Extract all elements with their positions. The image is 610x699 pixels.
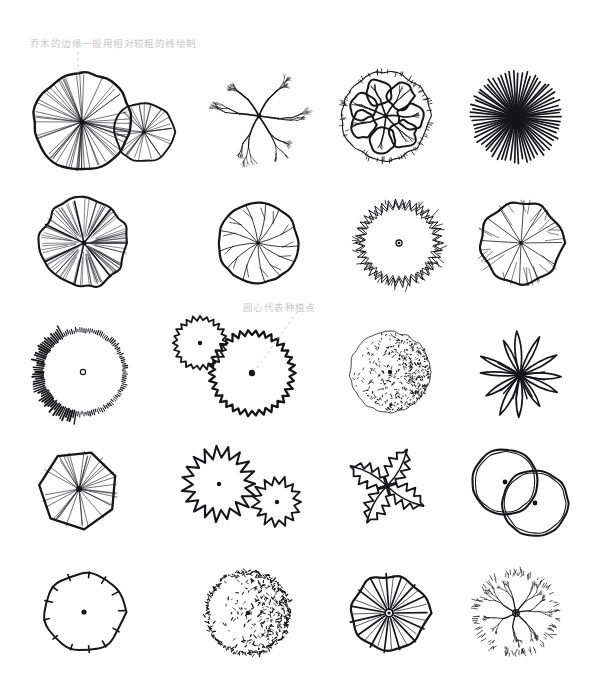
stroke — [271, 597, 272, 598]
stroke — [206, 605, 208, 606]
stroke — [212, 633, 213, 636]
stroke — [237, 572, 240, 573]
stroke — [394, 382, 395, 383]
stroke — [414, 372, 415, 373]
stroke — [420, 363, 421, 364]
stroke — [89, 572, 90, 578]
stroke — [393, 346, 394, 347]
stroke — [424, 356, 425, 357]
stroke — [278, 584, 279, 585]
stroke — [237, 651, 238, 653]
stroke — [279, 605, 280, 606]
stroke — [378, 70, 379, 74]
stroke — [408, 366, 409, 367]
stroke — [271, 644, 272, 645]
stroke — [209, 618, 210, 619]
stroke — [419, 203, 420, 208]
stroke — [122, 378, 126, 379]
stroke — [287, 611, 288, 612]
stroke — [250, 634, 251, 636]
stroke — [410, 346, 412, 347]
stroke — [402, 407, 403, 409]
stroke — [394, 337, 395, 338]
stroke — [75, 328, 76, 333]
stroke — [288, 606, 289, 608]
stroke — [33, 367, 43, 368]
stroke — [206, 610, 207, 611]
stroke — [354, 373, 355, 375]
annotation-center-planting-point: 圆心代表种植点 — [243, 300, 316, 314]
stroke — [391, 367, 392, 369]
stroke — [269, 575, 270, 576]
stroke — [268, 586, 270, 587]
stroke — [377, 399, 378, 400]
stroke — [123, 364, 126, 365]
stroke — [237, 617, 238, 619]
stroke — [397, 340, 398, 341]
stroke — [415, 373, 416, 374]
stroke — [276, 621, 277, 622]
planting-point-dot — [81, 609, 86, 614]
planting-point-dot — [503, 480, 508, 485]
planting-point-dot — [217, 482, 221, 486]
stroke — [402, 398, 403, 400]
stroke — [284, 610, 285, 611]
stroke — [406, 367, 407, 368]
stroke — [261, 611, 262, 612]
stroke — [254, 571, 255, 572]
stroke — [263, 575, 264, 576]
stroke — [32, 376, 43, 377]
planting-point-dot — [517, 372, 523, 378]
stroke — [510, 570, 511, 574]
stroke — [521, 243, 562, 244]
stroke — [267, 578, 268, 580]
planting-point-dot — [515, 612, 518, 615]
stroke — [419, 376, 420, 377]
stroke — [413, 396, 415, 397]
planting-point-dot — [198, 341, 202, 345]
stroke — [429, 123, 433, 124]
stroke — [411, 379, 412, 381]
planting-point-dot — [387, 611, 390, 614]
stroke — [241, 608, 242, 609]
stroke — [207, 599, 209, 600]
stroke — [261, 612, 262, 614]
planting-point-dot — [256, 241, 260, 245]
stroke — [389, 381, 390, 382]
stroke — [401, 401, 402, 402]
stroke — [391, 374, 392, 375]
stroke — [36, 378, 43, 379]
stroke — [269, 629, 272, 630]
stroke — [419, 386, 420, 387]
planting-point-dot — [275, 500, 279, 504]
stroke — [92, 329, 93, 332]
stroke — [88, 411, 89, 415]
stroke — [250, 650, 252, 651]
planting-point-dot — [385, 484, 389, 488]
planting-point-dot — [384, 114, 388, 118]
stroke — [427, 366, 428, 367]
stroke — [406, 388, 407, 389]
stroke — [398, 369, 399, 370]
stroke — [367, 395, 368, 396]
stroke — [274, 600, 275, 601]
planting-point-dot — [249, 370, 255, 376]
stroke — [208, 622, 209, 624]
stroke — [220, 579, 221, 581]
stroke — [381, 399, 382, 400]
stroke — [258, 581, 259, 584]
planting-point-dot — [82, 241, 87, 246]
stroke — [285, 598, 286, 599]
stroke — [221, 644, 223, 645]
stroke — [401, 342, 402, 343]
stroke — [267, 621, 268, 622]
stroke — [283, 632, 284, 633]
stroke — [413, 379, 414, 380]
stroke — [94, 331, 95, 334]
stroke — [78, 412, 79, 416]
stroke — [224, 645, 225, 647]
planting-point-dot — [142, 130, 146, 134]
stroke — [391, 404, 392, 406]
stroke — [290, 612, 291, 613]
stroke — [281, 587, 282, 588]
